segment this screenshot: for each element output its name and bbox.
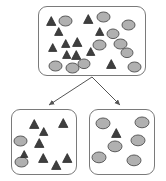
triangle-marker xyxy=(83,14,94,24)
circle-marker xyxy=(134,116,150,129)
arrow-parent-to-right-child xyxy=(92,77,120,105)
triangle-marker xyxy=(62,153,73,163)
triangle-marker xyxy=(29,119,40,129)
circle-marker xyxy=(77,58,91,70)
split-diagram xyxy=(0,0,166,181)
child-set-right-shapes xyxy=(90,110,154,174)
circle-marker xyxy=(126,154,142,167)
child-set-left-shapes xyxy=(12,110,76,174)
child-set-left-box xyxy=(11,109,77,175)
triangle-marker xyxy=(111,128,122,138)
circle-marker xyxy=(91,151,107,164)
parent-set-shapes xyxy=(39,7,145,75)
child-set-right-box xyxy=(89,109,155,175)
circle-marker xyxy=(107,140,123,153)
circle-marker xyxy=(121,19,136,31)
circle-marker xyxy=(96,11,111,23)
circle-marker xyxy=(130,134,146,147)
triangle-marker xyxy=(20,150,28,158)
triangle-marker xyxy=(62,50,71,59)
triangle-marker xyxy=(34,138,45,148)
triangle-marker xyxy=(106,59,117,69)
circle-marker xyxy=(58,15,73,27)
circle-marker xyxy=(106,28,120,40)
triangle-marker xyxy=(38,153,49,163)
triangle-marker xyxy=(95,27,104,36)
triangle-marker xyxy=(61,39,70,48)
circle-marker xyxy=(120,47,134,59)
circle-marker xyxy=(13,135,28,147)
triangle-marker xyxy=(51,160,62,170)
arrow-parent-to-left-child xyxy=(49,77,92,105)
triangle-marker xyxy=(72,37,83,47)
triangle-marker xyxy=(39,127,48,136)
triangle-marker xyxy=(86,47,95,56)
circle-marker xyxy=(48,60,63,72)
triangle-marker xyxy=(46,16,57,26)
parent-set-box xyxy=(38,6,146,76)
circle-marker xyxy=(127,61,142,73)
triangle-marker xyxy=(54,27,63,36)
triangle-marker xyxy=(48,43,57,52)
triangle-marker xyxy=(58,118,69,128)
circle-marker xyxy=(95,117,111,130)
